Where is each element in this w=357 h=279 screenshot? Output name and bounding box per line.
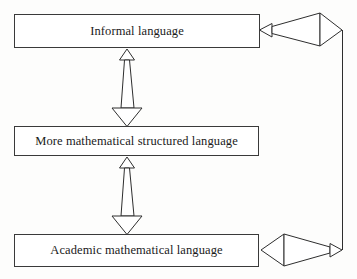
wedge-body-bottom-return <box>284 234 330 266</box>
wedge-body-structured-academic <box>121 168 134 216</box>
node-label-academic-language: Academic mathematical language <box>50 244 222 257</box>
node-box-informal-language[interactable]: Informal language <box>14 14 260 48</box>
wedge-body-top-return <box>272 13 320 46</box>
connector-structured-academic <box>112 157 142 235</box>
connector-academic-to-informal <box>260 13 343 266</box>
wedge-body-informal-structured <box>121 60 134 108</box>
arrowhead-right-large-top-rail <box>320 13 342 46</box>
arrowhead-left-large-academic-exit <box>261 234 284 266</box>
arrowhead-down-large-structured <box>112 108 142 127</box>
diagram-canvas: Informal language More mathematical stru… <box>0 0 357 279</box>
node-box-structured-language[interactable]: More mathematical structured language <box>14 126 259 156</box>
node-label-structured-language: More mathematical structured language <box>35 135 238 148</box>
arrowhead-left-small-informal-return <box>260 24 273 38</box>
arrowhead-up-small-structured <box>120 157 135 168</box>
arrowhead-down-large-academic <box>112 216 142 235</box>
connector-informal-structured <box>112 49 142 127</box>
node-box-academic-language[interactable]: Academic mathematical language <box>14 234 259 267</box>
arrowhead-right-small-rail-end <box>330 244 342 258</box>
arrowhead-up-small-informal <box>120 49 135 60</box>
node-label-informal-language: Informal language <box>90 25 184 38</box>
